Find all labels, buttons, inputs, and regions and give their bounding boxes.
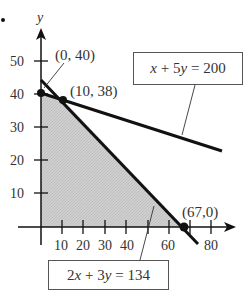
eq2-plus-3: + 3 [81,268,104,283]
svg-text:60: 60 [161,238,175,253]
bullet-dot [1,18,5,22]
y-tick-labels: 50 40 30 20 10 [10,54,24,201]
label-67-0: (67,0) [182,204,218,221]
svg-text:40: 40 [120,238,134,253]
svg-text:80: 80 [204,238,218,253]
svg-text:30: 30 [10,120,24,135]
equation-box-2x-plus-3y: 2x + 3y = 134 [48,260,169,290]
label-10-38: (10, 38) [70,83,118,100]
eq2-y: y [105,268,112,283]
svg-text:10: 10 [10,186,24,201]
svg-text:10: 10 [54,238,68,253]
eq2-x: x [75,268,82,283]
eq1-x: x [150,61,157,76]
corner-point-10-38 [59,96,67,104]
equation-box-x-plus-5y: x + 5y = 200 [133,52,243,85]
eq1-plus-5: + 5 [157,61,180,76]
eq2-2: 2 [67,268,75,283]
leader-0-40 [44,63,64,88]
label-0-40: (0, 40) [55,47,95,64]
svg-text:50: 50 [10,54,24,69]
linear-programming-graph: y 50 40 30 20 10 10 20 30 40 60 80 [0,0,243,290]
eq2-rhs: = 134 [111,268,149,283]
eq1-rhs: = 200 [187,61,225,76]
leader-eq1 [182,85,195,135]
y-axis-label: y [35,10,44,25]
svg-text:40: 40 [10,87,24,102]
corner-point-0-40 [37,89,45,97]
svg-text:20: 20 [76,238,90,253]
svg-text:30: 30 [98,238,112,253]
corner-point-67-0 [180,223,189,232]
svg-text:20: 20 [10,153,24,168]
eq1-y: y [181,61,188,76]
